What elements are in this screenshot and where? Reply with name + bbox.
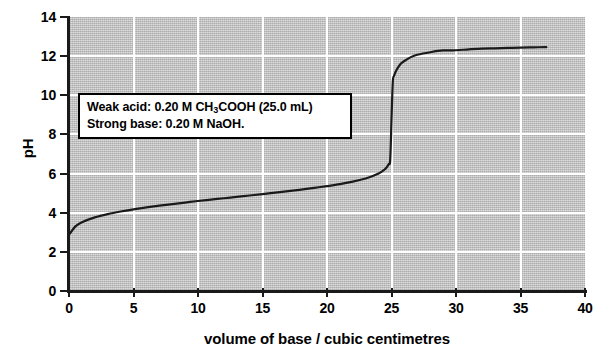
x-ticklabel-15: 15 [243, 301, 283, 315]
x-ticklabel-10: 10 [178, 301, 218, 315]
x-tick-5 [133, 288, 135, 297]
titration-curve-figure: 02468101214 0510152025303540 pH volume o… [0, 0, 614, 362]
x-tick-20 [326, 288, 328, 297]
conditions-annotation-box: Weak acid: 0.20 M CH3COOH (25.0 mL) Stro… [78, 93, 352, 139]
x-ticklabel-35: 35 [501, 301, 541, 315]
x-axis-title: volume of base / cubic centimetres [69, 330, 585, 347]
y-tick-8 [60, 133, 69, 135]
annotation-line-weak-acid: Weak acid: 0.20 M CH3COOH (25.0 mL) [87, 99, 343, 116]
annotation-line-strong-base: Strong base: 0.20 M NaOH. [87, 116, 343, 132]
titration-curve-line [69, 17, 585, 291]
y-tick-10 [60, 94, 69, 96]
x-tick-25 [391, 288, 393, 297]
y-ticklabel-14: 14 [26, 10, 56, 24]
y-tick-12 [60, 55, 69, 57]
x-ticklabel-0: 0 [49, 301, 89, 315]
x-ticklabel-40: 40 [565, 301, 605, 315]
x-ticklabel-30: 30 [436, 301, 476, 315]
y-axis-title: pH [19, 119, 36, 179]
y-ticklabel-12: 12 [26, 49, 56, 63]
x-ticklabel-20: 20 [307, 301, 347, 315]
y-tick-14 [60, 16, 69, 18]
x-tick-0 [68, 288, 70, 297]
y-ticklabel-0: 0 [26, 284, 56, 298]
y-ticklabel-4: 4 [26, 206, 56, 220]
annotation-line-1-pre: Weak acid: 0.20 M CH [87, 100, 213, 114]
x-ticklabel-25: 25 [372, 301, 412, 315]
x-tick-10 [197, 288, 199, 297]
y-tick-4 [60, 212, 69, 214]
x-tick-40 [584, 288, 586, 297]
annotation-line-1-sub: 3 [213, 105, 218, 115]
y-ticklabel-10: 10 [26, 88, 56, 102]
y-tick-6 [60, 173, 69, 175]
x-tick-35 [520, 288, 522, 297]
x-ticklabel-5: 5 [114, 301, 154, 315]
x-tick-15 [262, 288, 264, 297]
annotation-line-1-post: COOH (25.0 mL) [218, 100, 312, 114]
plot-area [69, 17, 585, 291]
y-tick-2 [60, 251, 69, 253]
annotation-line-2-pre: Strong base: 0.20 M NaOH. [87, 117, 244, 131]
x-tick-30 [455, 288, 457, 297]
y-ticklabel-2: 2 [26, 245, 56, 259]
